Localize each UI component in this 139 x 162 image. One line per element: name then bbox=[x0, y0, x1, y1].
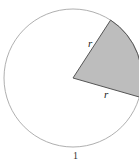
circle-diagram bbox=[0, 0, 139, 162]
radius-label-upper: r bbox=[88, 38, 92, 49]
caption-number: 1 bbox=[73, 151, 78, 161]
radius-label-lower: r bbox=[104, 89, 108, 100]
